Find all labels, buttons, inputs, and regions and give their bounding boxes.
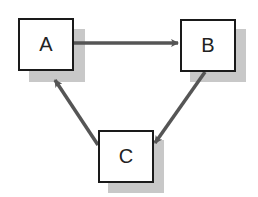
node-c: C xyxy=(98,130,154,183)
node-b: B xyxy=(180,19,236,72)
node-c-label: C xyxy=(119,145,133,168)
node-a: A xyxy=(18,18,74,71)
node-a-label: A xyxy=(39,33,52,56)
node-b-label: B xyxy=(201,34,214,57)
edge-b-to-c xyxy=(155,72,205,143)
edge-c-to-a xyxy=(55,80,98,145)
